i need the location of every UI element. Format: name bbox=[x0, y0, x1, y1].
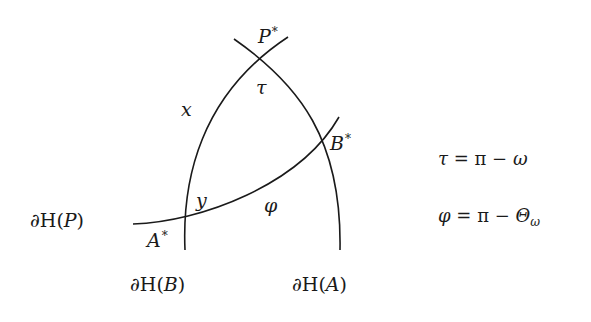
eq-lhs: τ bbox=[438, 148, 448, 169]
vertex-label-B-star: B* bbox=[330, 133, 351, 153]
boundary-suffix: ) bbox=[178, 273, 185, 295]
eq-equals: = bbox=[448, 148, 475, 169]
hyperbolic-triangle-diagram: P* B* A* τ x y φ ∂H(P) ∂H(B) ∂H(A) τ = π… bbox=[0, 0, 591, 322]
equation-phi: φ = π − Θω bbox=[438, 207, 540, 228]
eq-equals: = bbox=[451, 205, 478, 226]
side-label-y: y bbox=[196, 191, 207, 210]
boundary-var: P bbox=[64, 209, 77, 231]
boundary-label-dH-B: ∂H(B) bbox=[130, 275, 185, 294]
eq-minus: − bbox=[486, 148, 513, 169]
boundary-var: A bbox=[326, 273, 340, 295]
vertex-name: B bbox=[330, 132, 344, 154]
vertex-name: P bbox=[258, 25, 271, 47]
boundary-var: B bbox=[164, 273, 178, 295]
side-label-x: x bbox=[181, 100, 192, 119]
equation-tau: τ = π − ω bbox=[438, 150, 528, 168]
vertex-star: * bbox=[272, 25, 278, 39]
boundary-prefix: ∂H( bbox=[130, 273, 164, 295]
eq-const: π bbox=[477, 205, 489, 226]
boundary-suffix: ) bbox=[340, 273, 347, 295]
eq-minus: − bbox=[489, 205, 516, 226]
eq-var: ω bbox=[513, 148, 528, 169]
boundary-curve-dH-P bbox=[133, 117, 339, 224]
boundary-prefix: ∂H( bbox=[292, 273, 326, 295]
eq-subscript: ω bbox=[530, 215, 540, 229]
boundary-prefix: ∂H( bbox=[30, 209, 64, 231]
angle-label-phi: φ bbox=[264, 196, 277, 215]
eq-const: π bbox=[475, 148, 487, 169]
boundary-curve-dH-A bbox=[234, 39, 340, 250]
vertex-label-P-star: P* bbox=[258, 26, 278, 46]
vertex-name: A bbox=[147, 229, 161, 251]
boundary-suffix: ) bbox=[77, 209, 84, 231]
vertex-star: * bbox=[345, 132, 351, 146]
vertex-star: * bbox=[162, 229, 168, 243]
angle-label-tau: τ bbox=[256, 78, 267, 97]
vertex-label-A-star: A* bbox=[147, 230, 168, 250]
boundary-curve-dH-B bbox=[185, 37, 288, 250]
eq-var: Θ bbox=[516, 205, 531, 226]
boundary-label-dH-P: ∂H(P) bbox=[30, 211, 84, 230]
eq-lhs: φ bbox=[438, 205, 451, 226]
boundary-label-dH-A: ∂H(A) bbox=[292, 275, 347, 294]
